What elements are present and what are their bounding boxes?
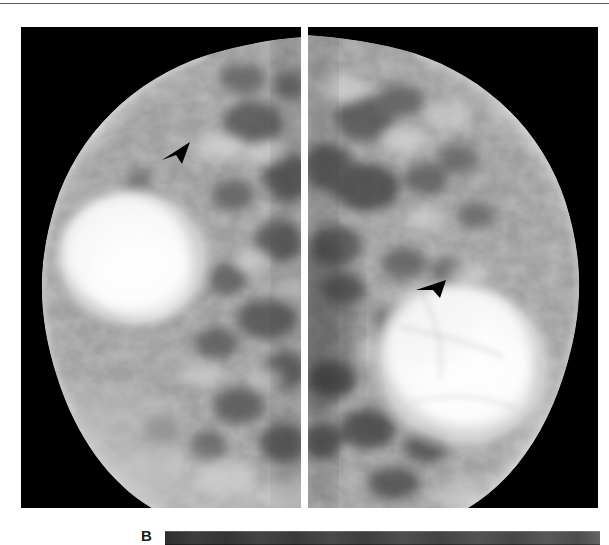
figure-panel-b: B [0,0,609,545]
left-mammogram-image [21,27,301,508]
grayscale-step-wedge [165,531,600,545]
right-mammogram-image [308,27,598,508]
top-rule-divider [0,3,609,4]
left-mammogram-panel [21,27,301,508]
panel-label: B [141,528,152,543]
right-mammogram-panel [308,27,598,508]
